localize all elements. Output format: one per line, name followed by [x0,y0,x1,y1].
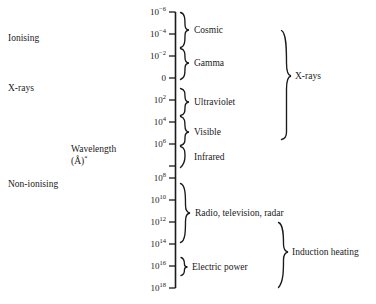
brace-visible [181,117,190,146]
inner-brace-group [181,13,191,276]
brace-x-rays-outer [282,31,292,140]
tick-exponent: 2 [163,93,166,100]
tick-label: 102 [138,95,166,105]
brace-induction-heating-outer [279,223,289,288]
tick-label: 104 [138,117,166,127]
tick-exponent: 10 [160,193,167,200]
band-label-visible: Visible [194,127,221,138]
outer-brace-group [279,31,292,288]
band-label-x-rays-outer: X-rays [295,71,321,82]
band-label-infrared: Infrared [194,152,225,163]
left-category-non-ionising: Non-ionising [8,178,58,190]
band-label-ultraviolet: Ultraviolet [194,97,235,108]
tick-exponent: −2 [159,49,166,56]
tick-label: 10−2 [138,51,166,61]
axis-and-braces-svg [0,0,376,304]
tick-label: 1014 [136,239,166,249]
tick-label: 1012 [136,217,166,227]
brace-ultraviolet [181,89,190,116]
tick-exponent: 16 [160,259,167,266]
axis-footnote-marker: * [84,154,87,161]
tick-exponent: 14 [160,237,167,244]
tick-exponent: −4 [159,27,166,34]
band-label-electric-power: Electric power [192,262,248,273]
brace-cosmic [181,13,190,48]
axis-tick-marks [169,12,176,288]
tick-label: 1018 [136,283,166,293]
tick-exponent: 6 [163,137,166,144]
brace-infrared [181,147,186,168]
brace-gamma [181,49,190,80]
band-label-induction-heating-outer: Induction heating [292,247,359,258]
tick-label: 106 [138,139,166,149]
left-category-ionising: Ionising [8,32,39,44]
tick-label: 1016 [136,261,166,271]
axis-title-line-2: (Å)* [71,155,87,167]
tick-exponent: 8 [163,171,166,178]
tick-exponent: −6 [159,5,166,12]
tick-label: 10−6 [138,7,166,17]
left-category-x-rays: X-rays [8,82,34,94]
electromagnetic-spectrum-figure: 10−6 10−4 10−2 0 102 104 106 108 1010 10… [0,0,376,304]
brace-electric-power [181,258,188,276]
tick-label: 1010 [136,195,166,205]
tick-exponent: 18 [160,281,167,288]
tick-exponent: 4 [163,115,166,122]
band-label-cosmic: Cosmic [194,25,223,36]
tick-label: 108 [138,173,166,183]
tick-label: 10−4 [138,29,166,39]
band-label-gamma: Gamma [194,58,224,69]
axis-unit-angstrom: (Å) [71,156,84,166]
axis-title-line-1: Wavelength [71,143,116,155]
tick-label: 0 [138,73,166,83]
band-label-radio-television-radar: Radio, television, radar [195,208,284,219]
brace-radio-television-radar [181,184,191,243]
tick-exponent: 12 [160,215,167,222]
